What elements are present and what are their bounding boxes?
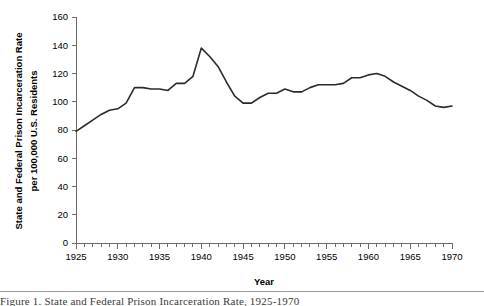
x-tick-label: 1960 bbox=[358, 251, 379, 262]
incarceration-rate-line bbox=[76, 48, 452, 131]
x-tick-label: 1940 bbox=[191, 251, 212, 262]
x-tick-label: 1950 bbox=[274, 251, 295, 262]
y-tick-label: 100 bbox=[52, 96, 68, 107]
y-axis-title-line-2: per 100,000 U.S. Residents bbox=[28, 71, 39, 192]
y-tick-label: 140 bbox=[52, 40, 68, 51]
x-tick-label: 1945 bbox=[233, 251, 254, 262]
x-tick-label: 1925 bbox=[65, 251, 86, 262]
x-axis: 1925193019351940194519501955196019651970 bbox=[65, 243, 462, 262]
y-tick-label: 20 bbox=[57, 209, 68, 220]
y-tick-label: 0 bbox=[63, 237, 68, 248]
y-tick-label: 160 bbox=[52, 11, 68, 22]
x-axis-title: Year bbox=[254, 276, 274, 287]
figure-container: State and Federal Prison Incarceration R… bbox=[0, 0, 484, 306]
y-tick-label: 80 bbox=[57, 124, 68, 135]
figure-caption: Figure 1. State and Federal Prison Incar… bbox=[0, 295, 484, 306]
x-tick-label: 1955 bbox=[316, 251, 337, 262]
x-tick-label: 1930 bbox=[107, 251, 128, 262]
y-tick-label: 120 bbox=[52, 68, 68, 79]
data-series-group bbox=[76, 48, 452, 131]
y-tick-label: 40 bbox=[57, 181, 68, 192]
x-tick-label: 1970 bbox=[441, 251, 462, 262]
x-tick-label: 1935 bbox=[149, 251, 170, 262]
y-axis: 020406080100120140160 bbox=[52, 11, 76, 248]
y-axis-title-line-1: State and Federal Prison Incarceration R… bbox=[13, 33, 24, 230]
y-axis-title-group: State and Federal Prison Incarceration R… bbox=[13, 33, 39, 230]
x-tick-label: 1965 bbox=[400, 251, 421, 262]
y-tick-label: 60 bbox=[57, 153, 68, 164]
incarceration-rate-line-chart: State and Federal Prison Incarceration R… bbox=[0, 0, 484, 292]
caption-divider bbox=[0, 291, 484, 292]
